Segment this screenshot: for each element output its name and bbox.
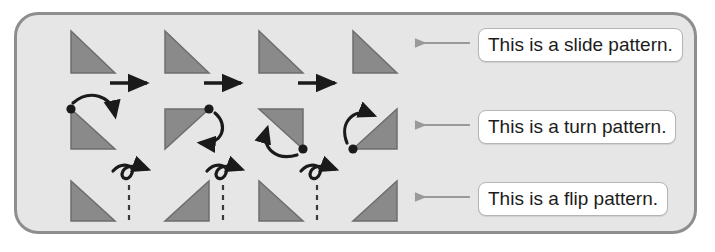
flip-mirror-lines-and-arrows	[17, 163, 437, 233]
label-flip-pattern: This is a flip pattern.	[478, 182, 668, 216]
pointer-arrow-slide	[408, 36, 472, 50]
turn-pivot-dot-2	[204, 104, 213, 113]
pointer-arrow-turn	[408, 118, 472, 132]
diagram-stage: This is a slide pattern. This is a turn …	[0, 0, 715, 252]
flip-mirror-line-2	[207, 165, 241, 225]
flip-mirror-line-1	[113, 165, 147, 225]
turn-triangle-2	[157, 91, 252, 161]
turn-pivot-dot-4	[348, 144, 357, 153]
flip-shape-track	[17, 163, 437, 233]
pointer-arrow-flip	[408, 190, 472, 204]
slide-arrows	[17, 21, 437, 91]
label-turn-pattern: This is a turn pattern.	[478, 110, 676, 144]
turn-pivot-dot-1	[66, 104, 75, 113]
turn-shape-track	[17, 91, 437, 161]
turn-pivot-dot-3	[298, 144, 307, 153]
slide-shape-track	[17, 21, 437, 91]
label-slide-pattern: This is a slide pattern.	[478, 28, 683, 62]
flip-mirror-line-3	[301, 165, 335, 225]
turn-triangle-1	[63, 91, 158, 161]
turn-triangle-3	[251, 91, 346, 161]
